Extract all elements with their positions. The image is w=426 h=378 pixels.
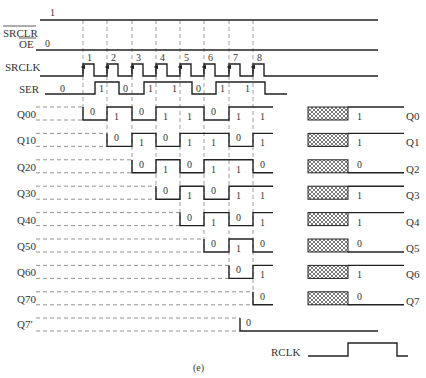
stage-row-q00: Q0001011011 (17, 106, 273, 122)
stage-value: 0 (236, 212, 241, 223)
unknown-state-band (36, 186, 156, 199)
ser-value: 1 (172, 83, 177, 94)
stage-value: 0 (236, 132, 241, 143)
output-row-q3: 1Q3 (308, 186, 420, 201)
stage-value: 1 (260, 111, 265, 122)
srclk-pulse-number: 8 (257, 52, 262, 63)
stage-value: 0 (260, 238, 265, 249)
ser-value: 1 (220, 83, 225, 94)
q7-prime-label: Q7′ (17, 318, 33, 330)
srclr-oe-signal: 1 SRCLR OE 0 (3, 7, 378, 50)
output-label: Q2 (406, 163, 419, 175)
ser-label: SER (19, 83, 40, 95)
stage-value: 1 (211, 164, 216, 175)
q7-prime-waveform (240, 318, 378, 331)
stage-label: Q70 (17, 293, 36, 305)
oe-level: 0 (45, 38, 50, 49)
stage-value: 0 (139, 159, 144, 170)
stage-waveform (132, 160, 273, 173)
stage-label: Q30 (17, 187, 36, 199)
srclk-label: SRCLK (5, 61, 41, 73)
output-row-q2: 0Q2 (308, 159, 419, 175)
undefined-state-hatch (308, 160, 348, 173)
stage-label: Q20 (17, 161, 36, 173)
stage-value: 1 (211, 217, 216, 228)
stage-value: 1 (114, 111, 119, 122)
stage-value: 0 (211, 185, 216, 196)
q7-prime-signal: Q7′ 0 (17, 317, 378, 331)
storage-register-outputs: 1Q01Q10Q21Q31Q40Q51Q60Q7 (308, 107, 420, 307)
stage-label: Q10 (17, 134, 36, 146)
output-row-q5: 0Q5 (308, 238, 420, 254)
output-row-q1: 1Q1 (308, 133, 419, 148)
ser-value: 0 (60, 83, 65, 94)
stage-value: 0 (139, 106, 144, 117)
output-label: Q1 (406, 136, 419, 148)
output-row-q4: 1Q4 (308, 213, 420, 228)
stage-row-q30: Q3001011 (17, 185, 273, 201)
srclk-pulse-number: 1 (87, 52, 92, 63)
srclk-pulse-numbers: 12345678 (83, 52, 262, 74)
clock-edge-guides (83, 20, 253, 306)
unknown-state-band (36, 107, 83, 120)
stage-value: 0 (211, 106, 216, 117)
stage-value: 1 (163, 111, 168, 122)
stage-value: 1 (139, 137, 144, 148)
undefined-state-hatch (308, 239, 348, 252)
unknown-state-band (36, 133, 107, 146)
stage-label: Q50 (17, 240, 36, 252)
stage-row-q50: Q50010 (17, 238, 273, 254)
stage-value: 0 (211, 238, 216, 249)
undefined-state-hatch (308, 186, 348, 199)
stage-value: 1 (236, 164, 241, 175)
output-label: Q4 (406, 216, 420, 228)
stage-value: 1 (236, 111, 241, 122)
stage-value: 0 (163, 185, 168, 196)
stage-row-q10: Q100101101 (17, 132, 273, 148)
ser-values: 01011011 (60, 83, 250, 94)
stage-value: 0 (114, 132, 119, 143)
unknown-state-band (36, 213, 180, 226)
output-label: Q0 (406, 110, 420, 122)
srclk-pulse-number: 4 (160, 52, 165, 63)
stage-row-q70: Q700 (17, 291, 273, 305)
undefined-state-hatch (308, 292, 348, 305)
ser-value: 1 (245, 83, 250, 94)
srclk-waveform (40, 64, 378, 76)
unknown-state-band (36, 292, 253, 305)
stage-value: 0 (260, 159, 265, 170)
undefined-state-hatch (308, 133, 348, 146)
unknown-state-band (36, 265, 229, 278)
ser-value: 0 (123, 83, 128, 94)
srclk-signal: SRCLK 12345678 (5, 52, 378, 76)
stage-value: 0 (187, 159, 192, 170)
stage-value: 0 (90, 106, 95, 117)
stage-value: 1 (236, 190, 241, 201)
stage-value: 0 (163, 132, 168, 143)
srclk-pulse-number: 5 (184, 52, 189, 63)
stage-value: 1 (187, 190, 192, 201)
output-value: 0 (357, 238, 362, 249)
shift-register-stages: Q0001011011Q100101101Q20010110Q3001011Q4… (17, 106, 273, 305)
undefined-state-hatch (308, 107, 348, 120)
output-row-q6: 1Q6 (308, 265, 420, 280)
srclk-pulse-number: 7 (233, 52, 238, 63)
stage-label: Q00 (17, 108, 36, 120)
srclk-pulse-number: 6 (208, 52, 213, 63)
output-row-q0: 1Q0 (308, 107, 420, 122)
stage-row-q40: Q400101 (17, 212, 273, 228)
figure-caption: (e) (193, 362, 204, 374)
stage-value: 1 (211, 137, 216, 148)
stage-value: 1 (260, 137, 265, 148)
output-label: Q6 (406, 268, 420, 280)
output-value: 1 (357, 217, 362, 228)
stage-value: 0 (236, 264, 241, 275)
undefined-state-hatch (308, 213, 348, 226)
stage-label: Q60 (17, 266, 36, 278)
output-value: 1 (357, 137, 362, 148)
stage-row-q60: Q6001 (17, 264, 273, 280)
stage-value: 1 (187, 137, 192, 148)
q7-prime-value: 0 (246, 317, 251, 328)
rclk-signal: RCLK (271, 343, 408, 358)
oe-label: OE (19, 38, 34, 50)
